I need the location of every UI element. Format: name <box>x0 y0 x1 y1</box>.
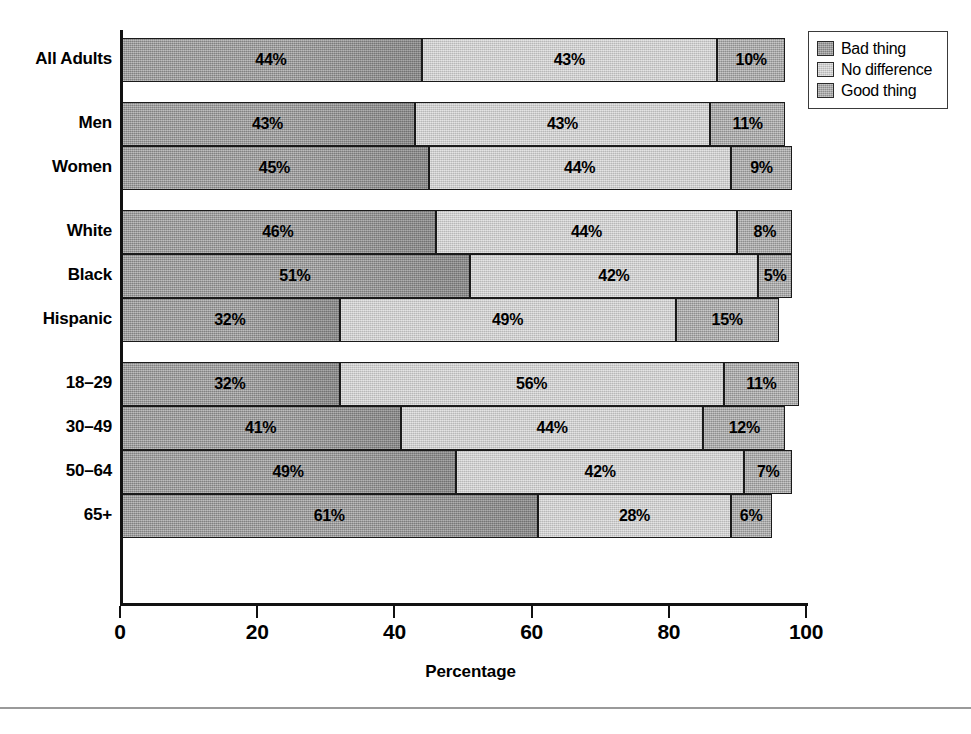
bar-segment-value: 44% <box>571 223 602 241</box>
category-label: 65+ <box>4 505 112 525</box>
bar-segment: 51% <box>120 254 470 298</box>
bar-segment: 43% <box>415 102 710 146</box>
bar-segment-value: 43% <box>252 115 283 133</box>
category-axis-labels: All AdultsMenWomenWhiteBlackHispanic18–2… <box>0 30 112 605</box>
bar-segment-value: 46% <box>262 223 293 241</box>
bar-segment: 42% <box>456 450 744 494</box>
category-label: Women <box>4 157 112 177</box>
bar-segment: 43% <box>422 38 717 82</box>
bar-segment: 49% <box>340 298 676 342</box>
bar-segment: 10% <box>717 38 786 82</box>
bar-segment-value: 7% <box>757 463 780 481</box>
bar-segment: 61% <box>120 494 538 538</box>
category-label: 50–64 <box>4 461 112 481</box>
category-label: Black <box>4 265 112 285</box>
legend-item-good-thing: Good thing <box>817 80 939 101</box>
bar-segment: 44% <box>436 210 738 254</box>
legend-label-good-thing: Good thing <box>841 82 916 100</box>
x-axis-tick-label: 100 <box>789 620 823 644</box>
legend-swatch-good-thing <box>817 83 834 98</box>
x-axis-tick-label: 80 <box>657 620 680 644</box>
bar-segment: 11% <box>710 102 785 146</box>
bar-segment-value: 61% <box>314 507 345 525</box>
bar-segment-value: 44% <box>564 159 595 177</box>
bar-segment: 46% <box>120 210 436 254</box>
x-axis-tick <box>119 606 121 618</box>
bar-segment-value: 10% <box>736 51 767 69</box>
bar-segment-value: 42% <box>598 267 629 285</box>
x-axis-tick-label: 40 <box>383 620 406 644</box>
x-axis-tick <box>256 606 258 618</box>
legend-item-bad-thing: Bad thing <box>817 38 939 59</box>
bar-segment-value: 56% <box>516 375 547 393</box>
x-axis-tick-label: 20 <box>246 620 269 644</box>
category-label: All Adults <box>4 49 112 69</box>
bar-segment-value: 32% <box>214 375 245 393</box>
stacked-bar-chart: All AdultsMenWomenWhiteBlackHispanic18–2… <box>0 0 971 734</box>
x-axis-tick-label: 60 <box>520 620 543 644</box>
legend-label-no-difference: No difference <box>841 61 932 79</box>
bar-segment: 44% <box>120 38 422 82</box>
legend: Bad thing No difference Good thing <box>808 31 948 109</box>
y-axis-line <box>120 30 123 605</box>
x-axis-tick <box>668 606 670 618</box>
x-axis-tick-label: 0 <box>114 620 125 644</box>
bar-segment: 42% <box>470 254 758 298</box>
bar-segment: 32% <box>120 298 340 342</box>
legend-swatch-bad-thing <box>817 41 834 56</box>
bar-segment: 43% <box>120 102 415 146</box>
bar-segment-value: 8% <box>754 223 777 241</box>
bar-segment: 56% <box>340 362 724 406</box>
category-label: 30–49 <box>4 417 112 437</box>
bar-segment-value: 41% <box>245 419 276 437</box>
bar-segment: 45% <box>120 146 429 190</box>
x-axis-title-text: Percentage <box>425 662 516 682</box>
bar-segment: 7% <box>744 450 792 494</box>
bar-segment: 41% <box>120 406 401 450</box>
x-axis-tick <box>531 606 533 618</box>
bar-segment-value: 9% <box>750 159 773 177</box>
x-axis-tick <box>805 606 807 618</box>
legend-label-bad-thing: Bad thing <box>841 40 906 58</box>
bar-segment: 44% <box>429 146 731 190</box>
bar-segment-value: 51% <box>279 267 310 285</box>
category-label: White <box>4 221 112 241</box>
legend-swatch-no-difference <box>817 62 834 77</box>
x-axis-tick <box>393 606 395 618</box>
bar-segment-value: 44% <box>255 51 286 69</box>
bar-segment-value: 32% <box>214 311 245 329</box>
category-label: Men <box>4 113 112 133</box>
bar-segment: 15% <box>676 298 779 342</box>
x-axis-line <box>120 603 808 606</box>
plot-area: 44%43%10%43%43%11%45%44%9%46%44%8%51%42%… <box>120 30 806 600</box>
bar-segment: 49% <box>120 450 456 494</box>
legend-item-no-difference: No difference <box>817 59 939 80</box>
bar-segment: 28% <box>538 494 730 538</box>
bar-segment: 12% <box>703 406 785 450</box>
bar-segment-value: 45% <box>259 159 290 177</box>
bar-segment: 11% <box>724 362 799 406</box>
bar-segment-value: 43% <box>547 115 578 133</box>
x-axis-title: Percentage <box>0 662 971 682</box>
bar-segment-value: 5% <box>764 267 787 285</box>
bar-segment-value: 15% <box>712 311 743 329</box>
category-label: Hispanic <box>4 309 112 329</box>
bar-segment-value: 28% <box>619 507 650 525</box>
bar-segment: 32% <box>120 362 340 406</box>
bar-segment: 6% <box>731 494 772 538</box>
bar-segment: 9% <box>731 146 793 190</box>
bar-segment-value: 6% <box>740 507 763 525</box>
bar-segment-value: 12% <box>729 419 760 437</box>
bar-segment-value: 49% <box>492 311 523 329</box>
bar-segment-value: 11% <box>746 375 776 393</box>
bar-segment-value: 11% <box>733 115 763 133</box>
bar-segment-value: 43% <box>554 51 585 69</box>
bar-segment: 44% <box>401 406 703 450</box>
bar-segment-value: 49% <box>273 463 304 481</box>
category-label: 18–29 <box>4 373 112 393</box>
bar-segment: 8% <box>737 210 792 254</box>
bar-segment-value: 44% <box>537 419 568 437</box>
footer-divider <box>0 707 971 709</box>
bar-segment-value: 42% <box>585 463 616 481</box>
bar-segment: 5% <box>758 254 792 298</box>
